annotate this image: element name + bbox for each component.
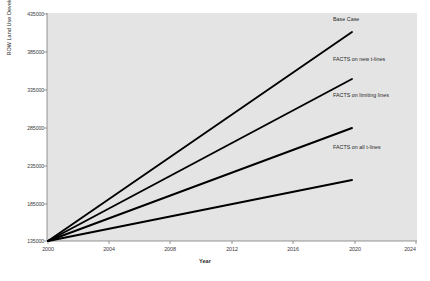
series-line-facts-new-t-lines bbox=[48, 79, 352, 241]
series-label-facts-new-t-lines: FACTS on new t-lines bbox=[333, 56, 385, 62]
axis-lines bbox=[47, 13, 417, 241]
series-label-facts-limiting-lines: FACTS on limiting lines bbox=[333, 92, 389, 98]
x-axis-ticks bbox=[48, 241, 416, 244]
chart-svg bbox=[0, 0, 430, 281]
series-line-facts-limiting-lines bbox=[48, 128, 352, 241]
data-lines bbox=[48, 32, 352, 241]
y-axis-ticks bbox=[44, 14, 47, 241]
chart-container: ROW Land Use Development (Acres) Year 43… bbox=[0, 0, 430, 281]
series-label-facts-all-t-lines: FACTS on all t-lines bbox=[333, 144, 381, 150]
series-label-base-case: Base Case bbox=[333, 16, 359, 22]
